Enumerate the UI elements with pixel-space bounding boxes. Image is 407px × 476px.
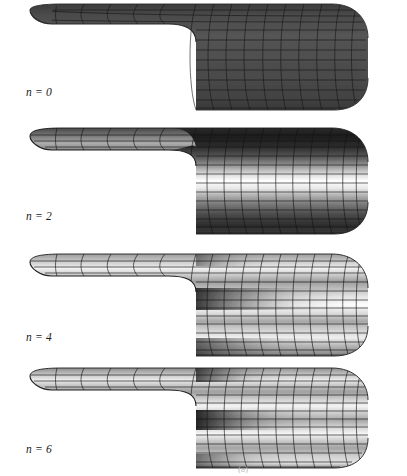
shell-panel-n4: n = 4 — [0, 252, 407, 364]
shell-panel-n2: n = 2 — [0, 126, 407, 242]
shell-surface-n0 — [0, 2, 407, 120]
panel-label-n4: n = 4 — [26, 331, 52, 343]
panel-label-text-n2: n = 2 — [26, 210, 52, 222]
panel-label-n2: n = 2 — [26, 210, 52, 222]
shell-surface-n2 — [0, 126, 407, 242]
figure-canvas: n = 0 — [0, 0, 407, 476]
panel-label-text-n0: n = 0 — [26, 86, 52, 98]
shell-panel-n6: n = 6 — [0, 366, 407, 476]
shell-surface-n4 — [0, 252, 407, 364]
panel-label-n0: n = 0 — [26, 86, 52, 98]
shell-panel-n0: n = 0 — [0, 2, 407, 120]
panel-label-n6: n = 6 — [26, 443, 52, 455]
figure-caption: (a) — [238, 464, 248, 474]
figure-caption-text: (a) — [238, 464, 248, 474]
shell-surface-n6 — [0, 366, 407, 476]
panel-label-text-n4: n = 4 — [26, 331, 52, 343]
panel-label-text-n6: n = 6 — [26, 443, 52, 455]
shell-body-n0 — [30, 4, 368, 110]
